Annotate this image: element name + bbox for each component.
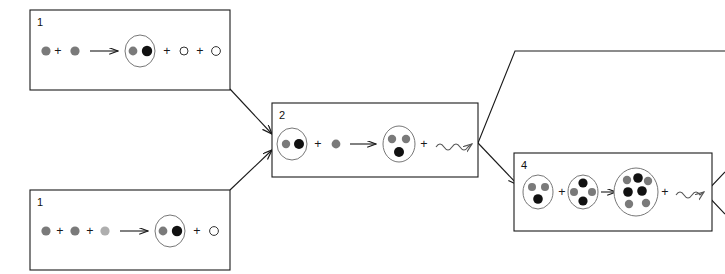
connector-bottom-box1-to-box2 [230, 150, 272, 190]
nucleus-four-particle [568, 175, 598, 209]
particle-neutron [533, 194, 543, 204]
particle-neutron [394, 147, 404, 157]
particle-proton [625, 200, 633, 208]
plus-operator: + [420, 137, 427, 151]
particle-neutron [142, 46, 152, 56]
particle-proton [644, 177, 652, 185]
connector-box2-to-upper-right [478, 51, 725, 143]
particle-neutron [578, 196, 587, 205]
nucleus-deuteron [277, 128, 307, 160]
particle-proton [623, 176, 631, 184]
box-step-2[interactable]: 2 + + [272, 103, 478, 177]
particle-positron [100, 226, 109, 235]
plus-operator: + [54, 44, 61, 58]
particle-neutron [172, 226, 182, 236]
box-step-4[interactable]: 4 + + [514, 153, 712, 231]
box-step-1-bottom[interactable]: 1 + + + [30, 190, 230, 270]
particle-proton [588, 188, 596, 196]
particle-neutrino [180, 47, 188, 55]
nucleus-ring [523, 175, 553, 209]
connector-top-box1-to-box2 [230, 89, 272, 134]
particle-proton [402, 135, 410, 143]
particle-proton [332, 140, 341, 149]
plus-operator: + [661, 185, 668, 199]
plus-operator: + [314, 137, 321, 151]
particle-neutron [623, 187, 633, 197]
particle-proton [528, 183, 536, 191]
fusion-chain-diagram: 1 + + + 1 + + + [0, 0, 725, 274]
particle-proton [129, 47, 138, 56]
particle-proton [570, 188, 578, 196]
plus-operator: + [558, 185, 565, 199]
particle-proton [70, 46, 79, 55]
particle-proton [541, 183, 549, 191]
box-step-1-top[interactable]: 1 + + + [30, 10, 230, 90]
nucleus-helium-3 [383, 126, 415, 162]
box-label: 2 [279, 109, 285, 121]
plus-operator: + [56, 224, 63, 238]
particle-neutron [294, 139, 304, 149]
diagram-canvas: 1 + + + 1 + + + [0, 0, 725, 274]
box-label: 4 [521, 159, 527, 171]
connector-box2-to-box4 [478, 143, 518, 185]
box-label: 1 [37, 16, 43, 28]
particle-proton [159, 227, 168, 236]
plus-operator: + [193, 224, 200, 238]
nucleus-deuteron [155, 215, 185, 247]
nucleus-large-product [614, 168, 658, 216]
plus-operator: + [86, 224, 93, 238]
particle-proton [41, 226, 50, 235]
nucleus-deuteron [125, 35, 155, 67]
plus-operator: + [196, 44, 203, 58]
plus-operator: + [163, 44, 170, 58]
particle-neutron [633, 173, 643, 183]
particle-neutron [637, 186, 647, 196]
particle-neutrino [210, 227, 219, 236]
particle-neutrino [212, 47, 221, 56]
particle-proton [70, 226, 79, 235]
box-label: 1 [37, 196, 43, 208]
particle-neutron [578, 178, 587, 187]
particle-proton [388, 135, 396, 143]
particle-proton [41, 46, 50, 55]
nucleus-helium-3 [523, 175, 553, 209]
particle-proton [282, 140, 290, 148]
particle-proton [642, 199, 650, 207]
